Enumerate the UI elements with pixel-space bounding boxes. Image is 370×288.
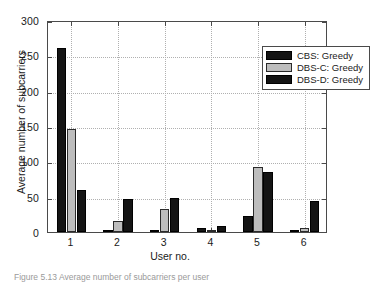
legend-label-dbs-c-greedy: DBS-C: Greedy xyxy=(297,63,363,73)
y-axis-tick-label: 50 xyxy=(27,192,39,204)
chart-plot-area: 050100150200250300 CBS: Greedy DBS-C: Gr… xyxy=(0,0,340,262)
bar-2-series-1 xyxy=(113,221,123,232)
y-axis-tick-label: 0 xyxy=(33,227,39,239)
x-axis-tick-label: 4 xyxy=(207,236,213,248)
bar-5-series-1 xyxy=(253,167,263,232)
bar-6-series-1 xyxy=(300,228,310,232)
bar-2-series-2 xyxy=(123,199,133,232)
bar-4-series-0 xyxy=(197,228,207,232)
legend-swatch-dbs-c-greedy xyxy=(266,63,292,72)
x-axis-tick-label: 6 xyxy=(301,236,307,248)
x-axis-title: User no. xyxy=(0,250,340,262)
bar-1-series-2 xyxy=(77,190,87,232)
chart-axes: CBS: Greedy DBS-C: Greedy DBS-D: Greedy xyxy=(47,21,327,233)
legend-item-2[interactable]: DBS-D: Greedy xyxy=(266,74,366,85)
legend-label-dbs-d-greedy: DBS-D: Greedy xyxy=(297,75,363,85)
bar-5-series-2 xyxy=(263,172,273,232)
legend-label-cbs-greedy: CBS: Greedy xyxy=(297,51,353,61)
y-axis-title: Average number of subcarriers xyxy=(15,22,27,222)
legend-swatch-cbs-greedy xyxy=(266,51,292,60)
legend-item-1[interactable]: DBS-C: Greedy xyxy=(266,62,366,73)
legend-swatch-dbs-d-greedy xyxy=(266,75,292,84)
bar-1-series-0 xyxy=(57,48,67,232)
figure-caption: Figure 5.13 Average number of subcarrier… xyxy=(14,272,326,284)
x-axis-tick-label: 5 xyxy=(254,236,260,248)
bar-4-series-1 xyxy=(207,230,217,232)
bar-1-series-1 xyxy=(67,129,77,232)
bar-2-series-0 xyxy=(103,230,113,232)
x-axis-tick-label: 3 xyxy=(161,236,167,248)
bar-5-series-0 xyxy=(243,216,253,232)
bar-6-series-0 xyxy=(290,230,300,232)
bar-3-series-2 xyxy=(170,198,180,232)
bar-3-series-1 xyxy=(160,209,170,232)
x-axis-tick-label: 2 xyxy=(114,236,120,248)
legend-item-0[interactable]: CBS: Greedy xyxy=(266,50,366,61)
chart-legend: CBS: Greedy DBS-C: Greedy DBS-D: Greedy xyxy=(262,46,370,90)
bar-3-series-0 xyxy=(150,230,160,232)
x-axis-tick-label: 1 xyxy=(67,236,73,248)
bar-6-series-2 xyxy=(310,201,320,232)
bar-4-series-2 xyxy=(217,226,227,232)
